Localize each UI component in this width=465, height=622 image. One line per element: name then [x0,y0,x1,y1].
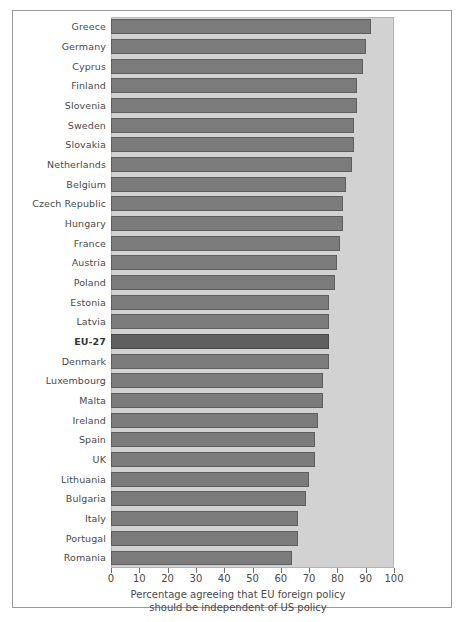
x-tick-label: 0 [108,573,114,584]
bar [111,452,315,467]
category-label: Estonia [13,292,106,312]
bar-row [111,469,394,489]
x-tick-label: 50 [246,573,259,584]
bar-row [111,430,394,450]
x-tick-label: 90 [359,573,372,584]
bar [111,19,371,34]
bar [111,551,292,566]
bar [111,491,306,506]
caption-line-1: Percentage agreeing that EU foreign poli… [73,589,403,602]
bar-row [111,292,394,312]
category-label: Belgium [13,174,106,194]
bar-row [111,115,394,135]
category-label: Portugal [13,528,106,548]
bar-row [111,174,394,194]
bar-row [111,155,394,175]
bar-row [111,273,394,293]
bar [111,78,357,93]
bar-row [111,135,394,155]
category-label: Czech Republic [13,194,106,214]
category-label: EU-27 [13,332,106,352]
bar [111,177,346,192]
bar [111,354,329,369]
category-label: Italy [13,509,106,529]
bar-row [111,410,394,430]
bar-row [111,371,394,391]
bar [111,98,357,113]
category-label: Netherlands [13,155,106,175]
category-label: Cyprus [13,56,106,76]
bar-row [111,37,394,57]
bar [111,314,329,329]
bar [111,432,315,447]
bar-row [111,96,394,116]
bar-row [111,489,394,509]
category-label: Greece [13,17,106,37]
bar-row [111,56,394,76]
category-label: Ireland [13,410,106,430]
bar-highlighted [111,334,329,349]
category-label: Latvia [13,312,106,332]
bar-row [111,17,394,37]
bar-row [111,509,394,529]
x-tick-label: 70 [303,573,316,584]
category-label: Hungary [13,214,106,234]
x-tick-label: 100 [384,573,403,584]
category-label: Spain [13,430,106,450]
bar [111,236,340,251]
bar [111,511,298,526]
chart-figure: GreeceGermanyCyprusFinlandSloveniaSweden… [12,10,452,608]
bar-row [111,548,394,568]
bar-row [111,253,394,273]
bar [111,472,309,487]
x-tick-label: 30 [190,573,203,584]
bar [111,393,323,408]
bar-series [111,17,394,568]
bar [111,531,298,546]
bar [111,275,335,290]
bar-row [111,391,394,411]
category-label: Germany [13,37,106,57]
bar-row [111,351,394,371]
category-label: Slovenia [13,96,106,116]
bar [111,196,343,211]
bar [111,255,337,270]
category-label: Finland [13,76,106,96]
x-tick-label: 80 [331,573,344,584]
x-tick-label: 10 [133,573,146,584]
category-label: France [13,233,106,253]
category-label: Denmark [13,351,106,371]
bar [111,39,366,54]
bar [111,157,352,172]
category-label: Romania [13,548,106,568]
category-label: Slovakia [13,135,106,155]
x-tick-label: 20 [161,573,174,584]
x-tick-label: 60 [274,573,287,584]
bar-row [111,312,394,332]
bar [111,373,323,388]
bar-row [111,194,394,214]
category-axis-labels: GreeceGermanyCyprusFinlandSloveniaSweden… [13,17,106,568]
bar-row [111,214,394,234]
bar [111,59,363,74]
category-label: Poland [13,273,106,293]
category-label: Luxembourg [13,371,106,391]
bar [111,413,318,428]
caption-line-2: should be independent of US policy [73,602,403,615]
category-label: Sweden [13,115,106,135]
bar-row [111,450,394,470]
bar [111,295,329,310]
bar-row [111,332,394,352]
bar-row [111,233,394,253]
category-label: Austria [13,253,106,273]
category-label: Malta [13,391,106,411]
bar-row [111,76,394,96]
chart-caption: Percentage agreeing that EU foreign poli… [73,589,403,614]
category-label: Bulgaria [13,489,106,509]
bar [111,216,343,231]
x-tick-label: 40 [218,573,231,584]
bar-row [111,528,394,548]
category-label: UK [13,450,106,470]
bar [111,118,354,133]
bar [111,137,354,152]
